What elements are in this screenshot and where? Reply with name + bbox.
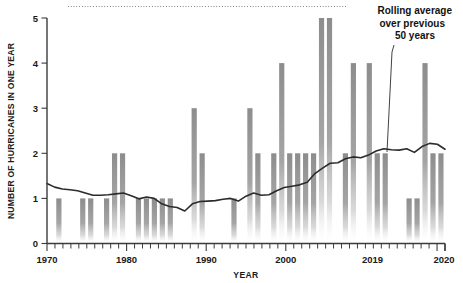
bar-1999 <box>279 63 284 243</box>
x-tick-label-2000: 2000 <box>275 254 296 265</box>
x-tick-label-1990: 1990 <box>196 254 217 265</box>
x-tick-label-2019: 2019 <box>362 254 383 265</box>
bar-2017 <box>422 63 427 243</box>
rolling-average-annotation: Rolling average over previous 50 years <box>378 5 453 152</box>
y-ticks-group <box>42 18 48 244</box>
bar-2002 <box>303 153 308 243</box>
bar-2012 <box>383 153 388 243</box>
x-tick-label-2020: 2020 <box>433 254 454 265</box>
bar-1977 <box>104 198 109 243</box>
annotation-leader-line <box>387 45 394 152</box>
y-tick-label-3: 3 <box>33 103 38 114</box>
x-tick-label-1980: 1980 <box>116 254 137 265</box>
hurricane-chart: 5 4 3 2 1 0 1970 1980 1990 2000 2019 202… <box>0 0 463 283</box>
bar-1971 <box>56 198 61 243</box>
bar-2007 <box>343 153 348 243</box>
bar-1982 <box>144 198 149 243</box>
bar-1975 <box>88 198 93 243</box>
bar-1989 <box>200 153 205 243</box>
y-tick-label-4: 4 <box>33 58 39 69</box>
bar-2003 <box>311 153 316 243</box>
bar-2000 <box>287 153 292 243</box>
y-tick-label-5: 5 <box>33 13 39 24</box>
bar-1998 <box>271 153 276 243</box>
x-axis-title: YEAR <box>233 270 259 280</box>
bar-1979 <box>120 153 125 243</box>
bar-1993 <box>231 198 236 243</box>
y-axis-title: NUMBER OF HURRICANES IN ONE YEAR <box>6 42 16 219</box>
bar-1983 <box>152 198 157 243</box>
bar-1996 <box>255 153 260 243</box>
bar-2001 <box>295 153 300 243</box>
bar-2018 <box>430 153 435 243</box>
bar-1985 <box>168 198 173 243</box>
annotation-line-2: over previous <box>379 18 445 29</box>
bar-2004 <box>319 18 324 244</box>
x-ticks-group <box>47 244 445 252</box>
annotation-line-1: Rolling average <box>378 5 453 16</box>
bar-2011 <box>375 153 380 243</box>
bar-1974 <box>80 198 85 243</box>
bar-2005 <box>327 18 332 244</box>
bar-1995 <box>247 108 252 243</box>
annotation-line-3: 50 years <box>395 30 435 41</box>
bar-2019 <box>438 153 443 243</box>
y-tick-label-0: 0 <box>33 238 38 249</box>
bar-1978 <box>112 153 117 243</box>
x-tick-label-1970: 1970 <box>36 254 57 265</box>
bar-2016 <box>414 198 419 243</box>
bars-group <box>56 18 443 244</box>
chart-canvas: 5 4 3 2 1 0 1970 1980 1990 2000 2019 202… <box>0 0 463 283</box>
bar-1981 <box>136 198 141 243</box>
y-tick-label-1: 1 <box>33 193 39 204</box>
bar-2008 <box>351 63 356 243</box>
bar-2015 <box>407 198 412 243</box>
bar-1988 <box>192 108 197 243</box>
y-tick-label-2: 2 <box>33 148 38 159</box>
